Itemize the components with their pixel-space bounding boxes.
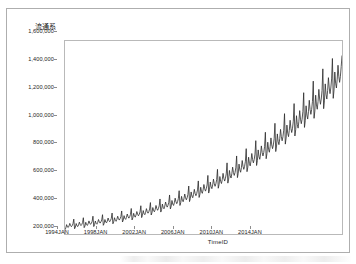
x-axis-tick-label: 2002JAN xyxy=(122,229,146,235)
x-axis-tick-label: 2010JAN xyxy=(200,229,224,235)
y-axis-tick-mark xyxy=(54,87,57,88)
x-axis-tick-mark xyxy=(211,226,212,229)
y-axis-tick-label: 1,200,000 xyxy=(28,84,54,90)
y-axis-tick-label: 400,000 xyxy=(33,195,54,201)
x-axis-tick-mark xyxy=(173,226,174,229)
y-axis-tick-label: 1,400,000 xyxy=(28,56,54,62)
x-axis-tick-label: 2014JAN xyxy=(238,229,262,235)
y-axis-tick-mark xyxy=(54,170,57,171)
y-axis-tick-mark xyxy=(54,31,57,32)
y-axis-tick-label: 800,000 xyxy=(33,139,54,145)
x-axis-tick-label: 2006JAN xyxy=(161,229,185,235)
x-axis-tick-label: 1994JAN xyxy=(45,229,69,235)
figure-frame: 流通系 xyxy=(6,8,350,253)
series-line-chart xyxy=(65,41,342,234)
x-axis-title: TimeID xyxy=(0,239,356,245)
x-axis-tick-mark xyxy=(57,226,58,229)
y-axis-tick-mark xyxy=(54,142,57,143)
x-axis-tick-mark xyxy=(250,226,251,229)
y-axis-tick-mark xyxy=(54,115,57,116)
data-series-line xyxy=(65,56,342,230)
x-axis-tick-mark xyxy=(134,226,135,229)
y-axis-tick-label: 1,000,000 xyxy=(28,112,54,118)
y-axis-tick-label: 600,000 xyxy=(33,167,54,173)
y-axis-tick-label: 1,600,000 xyxy=(28,28,54,34)
y-axis-tick-mark xyxy=(54,198,57,199)
scan-artifact xyxy=(120,256,352,262)
x-axis-tick-label: 1998JAN xyxy=(84,229,108,235)
x-axis-title-text: TimeID xyxy=(208,239,228,245)
y-axis-tick-labels: 200,000400,000600,000800,0001,000,0001,2… xyxy=(0,0,54,264)
x-axis-tick-mark xyxy=(96,226,97,229)
y-axis-tick-mark xyxy=(54,59,57,60)
plot-area xyxy=(64,40,343,235)
